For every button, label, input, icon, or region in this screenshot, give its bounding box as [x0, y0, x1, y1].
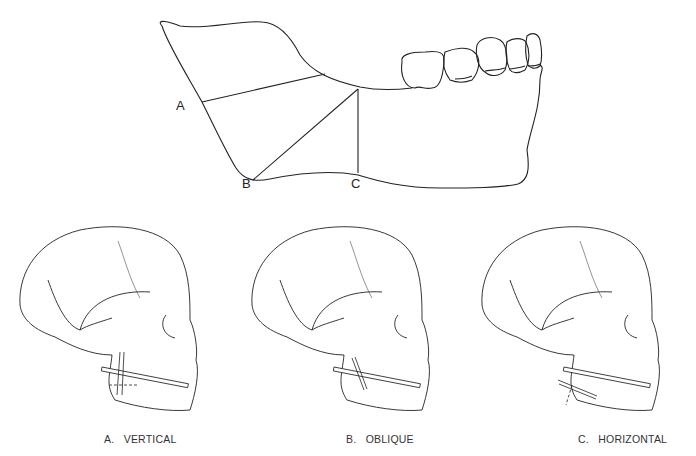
skull-horizontal: [482, 227, 660, 411]
mandible-body: [202, 65, 542, 188]
skull-oblique: [252, 227, 430, 411]
mandible-osteotomy-diagram: [0, 0, 696, 456]
tooth-canine: [526, 34, 542, 69]
skull-vertical: [20, 227, 198, 411]
tooth-molar-2: [444, 48, 479, 82]
point-label-c: C: [351, 176, 360, 191]
caption-horizontal: C. HORIZONTAL: [578, 433, 667, 445]
osteotomy-line-b: [253, 89, 358, 180]
mandible-outline: [160, 21, 412, 89]
tooth-molar-1: [402, 51, 445, 88]
caption-vertical: A. VERTICAL: [104, 433, 176, 445]
osteotomy-line-a: [202, 74, 325, 102]
point-label-a: A: [176, 98, 185, 113]
point-label-b: B: [242, 176, 251, 191]
caption-oblique: B. OBLIQUE: [346, 433, 414, 445]
